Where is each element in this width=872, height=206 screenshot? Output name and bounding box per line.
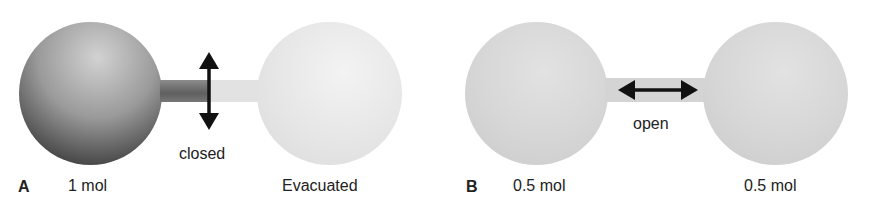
valve-state-label: closed (179, 145, 225, 163)
left-bulb-label: 1 mol (68, 177, 107, 195)
left-bulb-gas (465, 22, 608, 165)
panel-letter: A (18, 178, 30, 196)
vertical-double-arrow-icon (198, 52, 220, 130)
panel-b-open-valve: open B 0.5 mol 0.5 mol (440, 0, 872, 206)
panel-letter: B (466, 178, 478, 196)
left-bulb-label: 0.5 mol (513, 177, 565, 195)
valve-state-label: open (633, 115, 669, 133)
left-bulb-gas (19, 22, 162, 165)
right-bulb-label: 0.5 mol (744, 177, 796, 195)
right-bulb-gas (703, 22, 848, 165)
panel-a-closed-valve: closed A 1 mol Evacuated (0, 0, 440, 206)
right-bulb-label: Evacuated (282, 177, 358, 195)
horizontal-double-arrow-icon (618, 79, 698, 101)
right-bulb-evacuated (257, 22, 402, 165)
